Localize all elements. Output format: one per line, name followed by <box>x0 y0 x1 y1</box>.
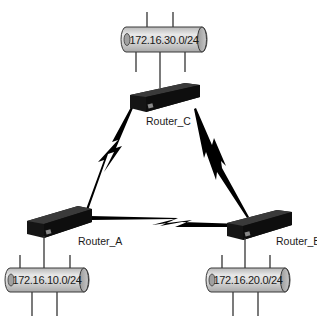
network-label: 172.16.20.0/24 <box>213 274 282 286</box>
link-c-a <box>85 107 133 213</box>
network-segment-b[interactable]: 172.16.20.0/24 <box>206 238 290 316</box>
router-a[interactable]: Router_A <box>27 206 122 247</box>
network-diagram: 172.16.30.0/24 Router_C Router_A Router_… <box>0 0 317 325</box>
lightning-bolt-icon <box>90 216 242 227</box>
router-label: Router_B <box>276 235 317 247</box>
lightning-bolt-icon <box>194 108 249 218</box>
router-icon <box>130 83 200 112</box>
router-c[interactable]: Router_C <box>130 83 200 127</box>
router-label: Router_C <box>146 115 191 127</box>
network-segment-c[interactable]: 172.16.30.0/24 <box>121 12 207 88</box>
link-a-b <box>90 216 242 227</box>
lightning-bolt-icon <box>85 107 133 213</box>
router-b[interactable]: Router_B <box>227 210 317 247</box>
pipe-cap <box>198 27 207 52</box>
network-segment-a[interactable]: 172.16.10.0/24 <box>5 236 89 316</box>
router-label: Router_A <box>78 235 122 247</box>
network-label: 172.16.30.0/24 <box>129 34 198 46</box>
link-c-b <box>194 108 249 218</box>
network-label: 172.16.10.0/24 <box>12 274 81 286</box>
router-icon <box>27 206 92 238</box>
